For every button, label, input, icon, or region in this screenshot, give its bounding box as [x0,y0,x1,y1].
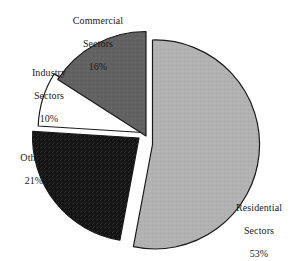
pie-label-industry: Industry Sectors 10% [12,55,86,136]
pie-label-industry-percent: 10% [12,113,86,125]
pie-label-others: Others 21% [2,140,66,198]
pie-label-industry-line2: Sectors [12,90,86,102]
pie-label-commercial-line2: Sectors [56,38,140,50]
pie-label-residential: Residential Sectors 53% [224,190,294,261]
pie-label-industry-line1: Industry [12,67,86,79]
pie-label-residential-line2: Sectors [224,225,294,237]
pie-label-residential-percent: 53% [224,248,294,260]
pie-label-others-percent: 21% [2,175,66,187]
pie-label-others-line1: Others [2,152,66,164]
pie-label-commercial-line1: Commercial [56,15,140,27]
pie-label-residential-line1: Residential [224,202,294,214]
